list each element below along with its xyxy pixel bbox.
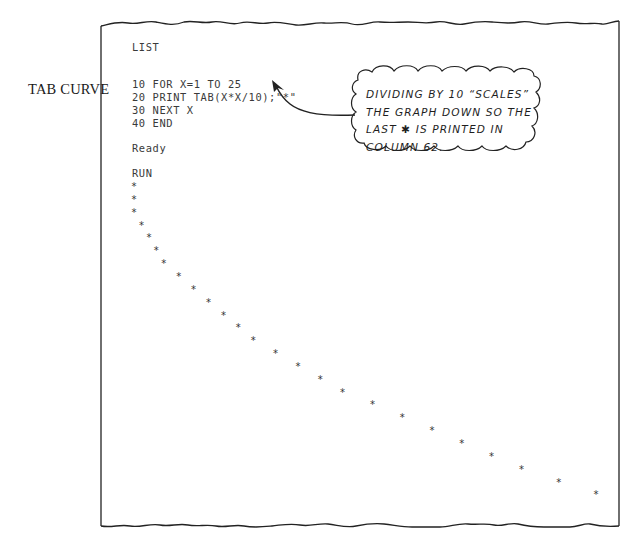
- ready-status: Ready: [132, 142, 166, 154]
- output-asterisk: *: [161, 259, 167, 269]
- output-asterisk: *: [235, 323, 241, 333]
- output-asterisk: *: [317, 375, 323, 385]
- program-line-20: 20 PRINT TAB(X*X/10);"*": [132, 91, 297, 103]
- output-asterisk: *: [429, 426, 435, 436]
- output-asterisk: *: [220, 311, 226, 321]
- output-asterisk: *: [131, 208, 137, 218]
- output-asterisk: *: [205, 298, 211, 308]
- output-asterisk: *: [146, 233, 152, 243]
- output-asterisk: *: [250, 336, 256, 346]
- section-label: TAB CURVE: [28, 81, 109, 98]
- program-line-30: 30 NEXT X: [132, 104, 194, 116]
- output-asterisk: *: [459, 439, 465, 449]
- output-asterisk: *: [176, 272, 182, 282]
- output-asterisk: *: [556, 478, 562, 488]
- output-asterisk: *: [295, 362, 301, 372]
- output-asterisk: *: [399, 413, 405, 423]
- run-command: RUN: [132, 167, 153, 179]
- output-asterisk: *: [131, 195, 137, 205]
- torn-top-edge: [101, 21, 619, 26]
- output-asterisk: *: [273, 349, 279, 359]
- list-command: LIST: [132, 41, 159, 53]
- output-asterisk: *: [131, 182, 137, 192]
- output-asterisk: *: [593, 490, 599, 500]
- callout-text: DIVIDING BY 10 “SCALES” THE GRAPH DOWN S…: [366, 86, 532, 157]
- callout-line: COLUMN 62.: [366, 141, 444, 153]
- output-asterisk: *: [191, 285, 197, 295]
- program-line-10: 10 FOR X=1 TO 25: [132, 78, 242, 90]
- output-asterisk: *: [518, 465, 524, 475]
- output-asterisk: *: [153, 246, 159, 256]
- torn-bottom-edge: [101, 524, 619, 528]
- callout-line: THE GRAPH DOWN SO THE: [366, 106, 532, 118]
- output-asterisk: *: [369, 400, 375, 410]
- program-line-40: 40 END: [132, 117, 173, 129]
- output-asterisk: *: [489, 452, 495, 462]
- callout-line: DIVIDING BY 10 “SCALES”: [366, 88, 529, 100]
- output-asterisk: *: [340, 388, 346, 398]
- callout-line: LAST ✱ IS PRINTED IN: [366, 123, 504, 135]
- output-asterisk: *: [138, 221, 144, 231]
